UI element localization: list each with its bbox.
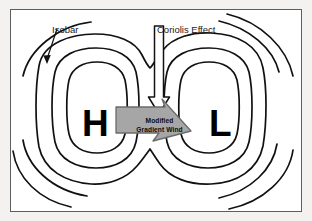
modified-gradient-wind-label: Modified Gradient Wind [131,117,188,134]
low-pressure-symbol: L [209,105,231,142]
coriolis-effect-label: Coriolis Effect [157,25,215,35]
isobar-arc-top-right-2 [227,14,293,76]
wind-label-line-1: Modified [131,117,188,126]
isobar-arc-top-right [219,21,279,72]
isobar-field [11,10,301,211]
wind-label-line-2: Gradient Wind [131,126,188,135]
diagram-root: H L Modified Gradient Wind Isobar Coriol… [0,0,312,221]
high-pressure-symbol: H [82,105,108,142]
isobar-arc-bottom-left-2 [13,151,71,207]
figure-frame: H L Modified Gradient Wind Isobar Coriol… [10,9,302,212]
coriolis-arrow [149,26,170,114]
isobar-label: Isobar [52,25,78,35]
